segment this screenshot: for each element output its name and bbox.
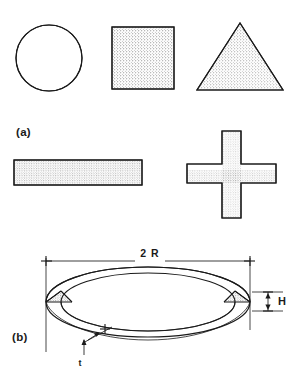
cross-stipple (187, 131, 276, 219)
square-shape (112, 27, 174, 89)
panel-a-label: (a) (16, 126, 31, 138)
square-stipple (112, 27, 174, 89)
rectangle-shape (14, 160, 142, 185)
circle-shape (14, 23, 86, 95)
panel-b-label: (b) (12, 331, 28, 343)
diameter-label: 2 R (140, 247, 159, 259)
triangle-stipple (195, 22, 287, 92)
circle-stipple (14, 23, 86, 95)
technical-figure-canvas: (a) 2 R (0, 0, 296, 375)
triangle-shape (195, 22, 287, 92)
thickness-label: t (79, 358, 82, 368)
figure-root: (a) 2 R (0, 0, 296, 375)
diameter-dimension: 2 R (41, 247, 255, 266)
height-dimension: H (252, 292, 287, 311)
rectangle-stipple (14, 160, 142, 185)
height-label: H (278, 295, 287, 307)
torus-ring (46, 267, 250, 340)
cross-shape (187, 131, 276, 219)
